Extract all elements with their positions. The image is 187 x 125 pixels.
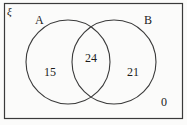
region-count-b-only: 21 [124, 66, 142, 78]
set-label-a: A [35, 14, 44, 26]
venn-diagram: ξ A B 15 24 21 0 [0, 0, 187, 125]
region-count-intersection: 24 [82, 52, 100, 64]
universal-set-label: ξ [7, 6, 12, 17]
set-label-b: B [144, 14, 152, 26]
region-count-a-only: 15 [41, 66, 59, 78]
region-count-outside: 0 [159, 96, 169, 108]
